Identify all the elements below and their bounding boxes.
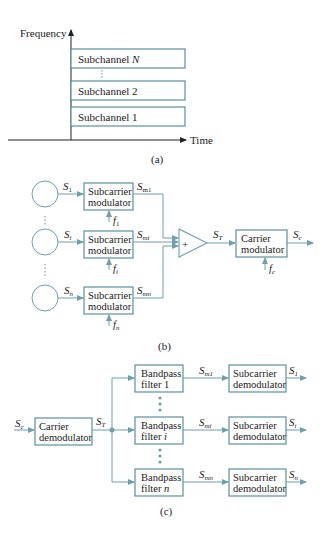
demn-line1: Subcarrier — [233, 472, 277, 483]
source-1-circle — [32, 181, 58, 207]
bpfi-line2: filter i — [141, 431, 167, 442]
caption-c: (c) — [160, 505, 173, 518]
signal-sm1: Sm1 — [137, 180, 152, 194]
bpfn-line1: Bandpass — [141, 472, 181, 483]
modn-line2: modulator — [88, 301, 132, 312]
time-axis-label: Time — [190, 134, 213, 146]
modi-line1: Subcarrier — [88, 234, 132, 245]
signal-smn: Smn — [137, 284, 152, 298]
freq-fn: fn — [113, 319, 120, 332]
signal-sc-in: Sc — [15, 417, 25, 431]
dem1-line1: Subcarrier — [233, 368, 277, 379]
freq-fc: fc — [269, 263, 276, 276]
signal-st-c: ST — [96, 415, 107, 429]
panel-a-frequency-time-chart: Frequency Time Subchannel N Subchannel 2… — [8, 27, 213, 166]
signal-sn: Sn — [64, 284, 74, 298]
subchannel-1-label: Subchannel 1 — [78, 111, 138, 123]
subchannel-n-label: Subchannel N — [78, 53, 140, 65]
summer-plus: + — [182, 238, 188, 250]
subchannel-2-label: Subchannel 2 — [78, 85, 138, 97]
demn-line2: demodulator — [233, 483, 287, 494]
signal-st: ST — [213, 228, 224, 242]
carrier-mod-line2: modulator — [241, 244, 285, 255]
dem1-line2: demodulator — [233, 379, 287, 390]
signal-s1: S1 — [63, 180, 73, 194]
mod1-line1: Subcarrier — [88, 186, 132, 197]
bpfi-line1: Bandpass — [141, 420, 181, 431]
branch-n-line — [112, 430, 134, 482]
source-i-circle — [32, 229, 58, 255]
freq-fi: fi — [113, 263, 118, 276]
demi-line2: demodulator — [233, 431, 287, 442]
signal-sn-out: Sn — [289, 468, 299, 482]
bpf1-line2: filter 1 — [141, 379, 169, 390]
panel-c-receiver: Sc Carrier demodulator ST Bandpass filte… — [14, 364, 306, 518]
signal-si-out: Si — [289, 416, 297, 430]
signal-smi-c: Smi — [199, 416, 212, 430]
signal-sc: Sc — [293, 228, 303, 242]
bpfn-line2: filter n — [141, 483, 169, 494]
frequency-axis-label: Frequency — [20, 27, 67, 39]
caption-a: (a) — [151, 153, 164, 166]
signal-smi: Smi — [137, 228, 150, 242]
demi-line1: Subcarrier — [233, 420, 277, 431]
mod1-line2: modulator — [88, 197, 132, 208]
freq-f1: f1 — [113, 215, 120, 228]
bpf1-line1: Bandpass — [141, 368, 181, 379]
fdm-diagram: Frequency Time Subchannel N Subchannel 2… — [0, 0, 334, 536]
carrier-mod-line1: Carrier — [241, 233, 271, 244]
branch-1-line — [112, 378, 134, 430]
carrier-demod-line2: demodulator — [39, 432, 93, 443]
modi-line2: modulator — [88, 245, 132, 256]
signal-si: Si — [64, 228, 72, 242]
signal-s1-out: S1 — [289, 364, 298, 378]
signal-sm1-c: Sm1 — [199, 364, 213, 378]
source-n-circle — [32, 285, 58, 311]
panel-b-transmitter: S1 Subcarrier modulator f1 Sm1 Si Subcar… — [32, 180, 313, 353]
carrier-demod-line1: Carrier — [39, 421, 69, 432]
caption-b: (b) — [158, 340, 171, 353]
modn-line1: Subcarrier — [88, 290, 132, 301]
signal-smn-c: Smn — [199, 468, 214, 482]
